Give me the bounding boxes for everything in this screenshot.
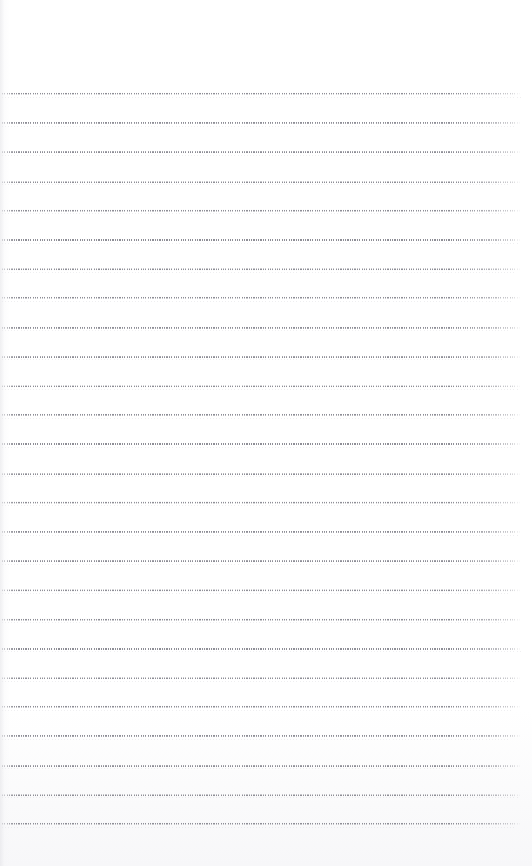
notebook-page [0, 0, 532, 866]
writing-area[interactable] [0, 0, 532, 866]
